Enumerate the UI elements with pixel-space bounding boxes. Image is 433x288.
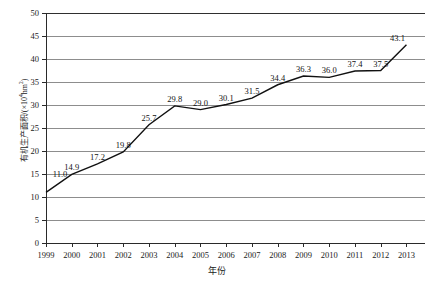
- data-point-label: 36.3: [296, 65, 311, 74]
- organic-production-area-line-chart: 有机生产面积/(×104hm2) 05101520253035404550 19…: [0, 0, 433, 288]
- x-axis-tick: [149, 243, 150, 247]
- x-axis-tick: [252, 243, 253, 247]
- data-point-label: 37.4: [348, 59, 363, 68]
- y-axis-tick-label: 0: [35, 239, 39, 248]
- data-series-line: [46, 13, 425, 243]
- y-axis-tick-label: 15: [31, 170, 40, 179]
- y-axis-tick-label: 50: [31, 9, 40, 18]
- y-axis-title: 有机生产面积/(×104hm2): [18, 41, 29, 201]
- x-axis-tick-label: 2002: [115, 251, 132, 260]
- y-axis-tick-label: 45: [31, 32, 40, 41]
- x-axis-tick: [381, 243, 382, 247]
- data-point-label: 34.4: [270, 73, 285, 82]
- x-axis-tick-label: 2004: [166, 251, 183, 260]
- x-axis-line: [46, 243, 425, 244]
- y-axis-tick-label: 20: [31, 147, 40, 156]
- x-axis-tick-label: 2012: [372, 251, 389, 260]
- data-point-label: 14.9: [64, 163, 79, 172]
- x-axis-tick: [226, 243, 227, 247]
- data-point-label: 29.8: [167, 94, 182, 103]
- x-axis-tick-label: 2003: [140, 251, 157, 260]
- y-axis-title-close-paren: ): [20, 79, 29, 82]
- data-point-label: 43.1: [390, 33, 405, 42]
- y-axis-tick-label: 30: [31, 101, 40, 110]
- x-axis-tick-label: 2013: [398, 251, 415, 260]
- x-axis-tick-label: 2009: [295, 251, 312, 260]
- x-axis-tick-label: 2006: [218, 251, 235, 260]
- x-axis-tick-label: 2007: [243, 251, 260, 260]
- x-axis-tick: [46, 243, 47, 247]
- y-axis-tick-label: 40: [31, 55, 40, 64]
- x-axis-tick: [200, 243, 201, 247]
- data-point-label: 29.0: [193, 98, 208, 107]
- x-axis-tick: [329, 243, 330, 247]
- y-axis-title-exponent: 4: [18, 94, 24, 97]
- y-axis-title-unit: hm: [20, 84, 29, 94]
- x-axis-title: 年份: [0, 264, 433, 277]
- data-point-label: 30.1: [219, 93, 234, 102]
- data-point-label: 36.0: [322, 66, 337, 75]
- x-axis-tick: [72, 243, 73, 247]
- x-axis-tick: [406, 243, 407, 247]
- plot-area: 05101520253035404550 1999200020012002200…: [46, 13, 425, 243]
- x-axis-tick: [175, 243, 176, 247]
- x-axis-tick-label: 2010: [321, 251, 338, 260]
- x-axis-tick: [355, 243, 356, 247]
- y-axis-tick-label: 25: [31, 124, 40, 133]
- x-axis-tick-label: 2011: [347, 251, 364, 260]
- y-axis-title-unit-exponent: 2: [18, 81, 24, 84]
- y-axis-tick-label: 10: [31, 193, 40, 202]
- x-axis-tick-label: 2000: [63, 251, 80, 260]
- x-axis-tick: [303, 243, 304, 247]
- x-axis-tick-label: 2005: [192, 251, 209, 260]
- y-axis-tick-label: 5: [35, 216, 39, 225]
- data-point-label: 19.8: [116, 140, 131, 149]
- x-axis-tick-label: 1999: [38, 251, 55, 260]
- y-axis-tick-label: 35: [31, 78, 40, 87]
- data-point-label: 17.2: [90, 152, 105, 161]
- y-axis-title-text: 有机生产面积/(×10: [20, 97, 29, 162]
- x-axis-tick-label: 2001: [89, 251, 106, 260]
- data-point-label: 31.5: [245, 87, 260, 96]
- x-axis-tick-label: 2008: [269, 251, 286, 260]
- x-axis-tick: [123, 243, 124, 247]
- x-axis-tick: [278, 243, 279, 247]
- x-axis-tick: [97, 243, 98, 247]
- data-point-label: 37.5: [373, 59, 388, 68]
- data-point-label: 25.7: [142, 113, 157, 122]
